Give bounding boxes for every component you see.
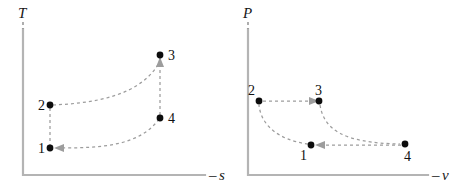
pv-y-axis-label: P <box>242 5 252 21</box>
ts-state-label-1: 1 <box>38 141 45 156</box>
ts-diagram-panel: T – s 1 2 3 4 <box>0 0 230 196</box>
ts-diagram-canvas: T – s 1 2 3 4 <box>0 0 230 196</box>
ts-process-4-1 <box>60 119 159 148</box>
ts-y-axis-label: T <box>18 5 28 21</box>
pv-state-label-4: 4 <box>404 149 411 164</box>
ts-state-label-3: 3 <box>168 48 175 63</box>
ts-state-label-2: 2 <box>38 98 45 113</box>
ts-state-dot-2 <box>47 102 54 109</box>
pv-state-dot-2 <box>256 98 263 105</box>
pv-diagram-canvas: P – v 2 3 1 4 <box>230 0 461 196</box>
pv-process-3-4 <box>320 105 400 144</box>
pv-process-1-2 <box>259 105 308 144</box>
pv-axes <box>248 29 428 175</box>
ts-process-2-3 <box>53 63 159 105</box>
pv-arrow-left-to-1 <box>315 141 325 149</box>
ts-state-label-4: 4 <box>168 111 175 126</box>
ts-state-dot-3 <box>157 52 164 59</box>
pv-state-dot-4 <box>402 141 409 148</box>
pv-x-axis-prefix: – <box>431 167 440 183</box>
pv-state-dot-3 <box>316 98 323 105</box>
pv-state-label-2: 2 <box>248 83 255 98</box>
pv-state-label-1: 1 <box>300 148 307 163</box>
ts-x-axis-label: s <box>219 167 225 183</box>
ts-state-dot-1 <box>47 145 54 152</box>
pv-state-dot-1 <box>308 142 315 149</box>
ts-x-axis-prefix: – <box>208 167 217 183</box>
pv-x-axis-label: v <box>442 167 449 183</box>
figure-root: T – s 1 2 3 4 <box>0 0 461 196</box>
pv-state-label-3: 3 <box>315 83 322 98</box>
pv-diagram-panel: P – v 2 3 1 4 <box>230 0 461 196</box>
ts-arrow-left-to-1 <box>54 144 64 152</box>
ts-state-dot-4 <box>157 115 164 122</box>
